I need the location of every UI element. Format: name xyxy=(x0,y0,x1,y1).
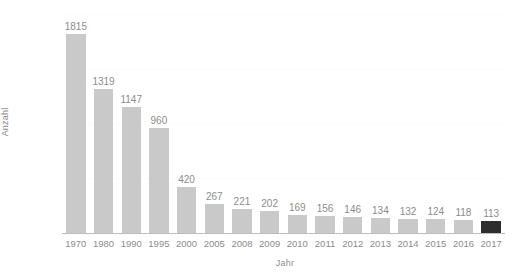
x-axis-tick-label: 2005 xyxy=(200,238,228,249)
bar-slot[interactable]: 1815 xyxy=(66,14,85,233)
x-axis-tick-label: 2009 xyxy=(256,238,284,249)
bar[interactable] xyxy=(149,128,168,233)
bar[interactable] xyxy=(288,215,307,234)
bar-slot[interactable]: 132 xyxy=(398,14,417,233)
x-axis-tick-label: 2013 xyxy=(367,238,395,249)
bar-slot[interactable]: 221 xyxy=(232,14,251,233)
x-axis-tick-label: 2000 xyxy=(173,238,201,249)
bar[interactable] xyxy=(481,221,500,233)
bar-slot[interactable]: 124 xyxy=(426,14,445,233)
bar[interactable] xyxy=(454,220,473,233)
bar-slot[interactable]: 267 xyxy=(205,14,224,233)
x-axis-tick-label: 1980 xyxy=(90,238,118,249)
x-axis-tick-label: 1995 xyxy=(145,238,173,249)
bar-value-label: 113 xyxy=(472,208,509,219)
bar[interactable] xyxy=(343,217,362,233)
bar[interactable] xyxy=(177,187,196,233)
bar-value-label: 1147 xyxy=(113,94,150,105)
bar[interactable] xyxy=(94,89,113,233)
bar-slot[interactable]: 118 xyxy=(454,14,473,233)
bar-slot[interactable]: 113 xyxy=(481,14,500,233)
x-axis-tick-label: 2014 xyxy=(394,238,422,249)
x-axis-tick-label: 2015 xyxy=(422,238,450,249)
bar-slot[interactable]: 1147 xyxy=(122,14,141,233)
x-axis-tick-label: 2010 xyxy=(284,238,312,249)
bar-slot[interactable]: 156 xyxy=(315,14,334,233)
bar-value-label: 420 xyxy=(168,174,205,185)
x-axis-title: Jahr xyxy=(0,258,518,268)
bar[interactable] xyxy=(315,216,334,233)
bar[interactable] xyxy=(232,209,251,233)
y-axis-title: Anzahl xyxy=(0,102,10,142)
bar-slot[interactable]: 146 xyxy=(343,14,362,233)
bar[interactable] xyxy=(426,219,445,233)
x-axis-tick-label: 1990 xyxy=(117,238,145,249)
bar-slot[interactable]: 169 xyxy=(288,14,307,233)
x-axis-tick-label: 2016 xyxy=(450,238,478,249)
bar-value-label: 1319 xyxy=(85,76,122,87)
bar-value-label: 960 xyxy=(140,115,177,126)
bar-slot[interactable]: 202 xyxy=(260,14,279,233)
bar-slot[interactable]: 134 xyxy=(371,14,390,233)
bar-chart: Anzahl 181513191147960420267221202169156… xyxy=(0,0,518,279)
plot-area: 1815131911479604202672212021691561461341… xyxy=(62,14,505,233)
x-axis-tick-label: 2012 xyxy=(339,238,367,249)
bar[interactable] xyxy=(371,218,390,233)
x-axis-tick-label: 2011 xyxy=(311,238,339,249)
x-axis-tick-label: 2017 xyxy=(477,238,505,249)
x-axis-line xyxy=(62,233,505,234)
bar-slot[interactable]: 960 xyxy=(149,14,168,233)
bar[interactable] xyxy=(66,34,85,233)
bar-slot[interactable]: 420 xyxy=(177,14,196,233)
bar-value-label: 1815 xyxy=(57,21,94,32)
bar[interactable] xyxy=(260,211,279,233)
bar[interactable] xyxy=(205,204,224,233)
x-axis-tick-label: 1970 xyxy=(62,238,90,249)
bar[interactable] xyxy=(398,219,417,233)
bar[interactable] xyxy=(122,107,141,233)
bar-slot[interactable]: 1319 xyxy=(94,14,113,233)
x-axis-tick-label: 2008 xyxy=(228,238,256,249)
